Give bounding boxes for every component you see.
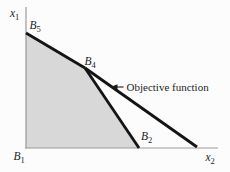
diagram-canvas: Objective function x1 x2 B5 B4 B2 B1 <box>0 0 230 172</box>
vertex-label-b1-base: B <box>14 150 21 162</box>
axis-label-x2: x2 <box>205 151 215 166</box>
vertex-label-b5-sub: 5 <box>37 24 41 34</box>
objective-function-label: Objective function <box>127 81 210 93</box>
vertex-label-b4-sub: 4 <box>92 60 97 70</box>
vertex-label-b2: B2 <box>141 130 152 145</box>
vertex-label-b2-base: B <box>141 130 148 142</box>
axis-label-x2-sub: 2 <box>211 156 215 166</box>
vertex-label-b5: B5 <box>30 19 41 34</box>
vertex-label-b4-base: B <box>85 55 92 67</box>
axis-label-x1: x1 <box>9 7 19 22</box>
feasible-region <box>26 33 139 148</box>
lp-diagram: Objective function x1 x2 B5 B4 B2 B1 <box>0 0 230 172</box>
vertex-label-b1-sub: 1 <box>21 155 25 165</box>
vertex-label-b5-base: B <box>30 19 37 31</box>
vertex-label-b2-sub: 2 <box>148 135 152 145</box>
vertex-label-b1: B1 <box>14 150 25 165</box>
axis-label-x1-sub: 1 <box>15 12 19 22</box>
